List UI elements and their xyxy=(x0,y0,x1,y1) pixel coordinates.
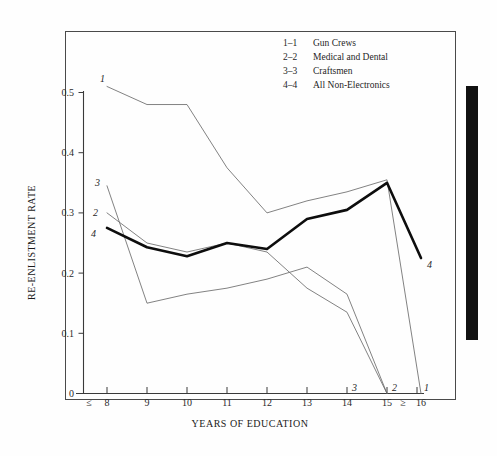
x-tick-8: 8 xyxy=(105,397,110,408)
side-black-bar xyxy=(466,86,478,340)
legend-label-2: Medical and Dental xyxy=(313,52,388,62)
start-label-4: 4 xyxy=(91,228,96,239)
x-tick-labels: ≤ 8 9 10 11 12 13 14 15 ≥ 16 xyxy=(86,397,426,408)
series-start-labels: 1 3 2 4 xyxy=(91,73,105,239)
x-tick-16: 16 xyxy=(416,397,426,408)
plot-frame xyxy=(66,32,456,400)
legend: 1–1 Gun Crews 2–2 Medical and Dental 3–3… xyxy=(283,38,390,90)
chart-page: 1–1 Gun Crews 2–2 Medical and Dental 3–3… xyxy=(0,0,497,456)
x-tick-gte: ≥ xyxy=(400,397,406,408)
y-tick-labels: 0.5 0.4 0.3 0.2 0.1 0 xyxy=(62,87,75,399)
legend-key-3: 3–3 xyxy=(283,66,298,76)
legend-key-4: 4–4 xyxy=(283,80,298,90)
x-tick-11: 11 xyxy=(222,397,232,408)
series-line-1 xyxy=(107,86,421,393)
series-layer xyxy=(107,86,421,393)
end-label-2: 2 xyxy=(392,382,397,393)
end-label-1: 1 xyxy=(424,382,429,393)
start-label-1: 1 xyxy=(100,73,105,84)
start-label-2: 2 xyxy=(93,207,98,218)
y-tick-0.4: 0.4 xyxy=(62,147,75,158)
x-tick-14: 14 xyxy=(342,397,352,408)
end-label-4: 4 xyxy=(427,259,432,270)
series-end-labels: 3 2 1 4 xyxy=(351,259,432,393)
y-ticks xyxy=(79,93,84,394)
x-tick-lte: ≤ xyxy=(86,397,92,408)
x-tick-12: 12 xyxy=(262,397,272,408)
series-line-3 xyxy=(107,186,387,394)
legend-key-2: 2–2 xyxy=(283,52,298,62)
y-tick-0.3: 0.3 xyxy=(62,207,75,218)
reenlistment-rate-line-chart: 1–1 Gun Crews 2–2 Medical and Dental 3–3… xyxy=(0,0,497,456)
x-tick-15: 15 xyxy=(382,397,392,408)
axes: 0.5 0.4 0.3 0.2 0.1 0 RE-ENLISTMENT RATE xyxy=(26,87,426,429)
series-line-4 xyxy=(107,183,421,258)
y-tick-0.1: 0.1 xyxy=(62,328,75,339)
end-label-3: 3 xyxy=(351,382,357,393)
x-ticks xyxy=(107,387,417,394)
x-axis-title: YEARS OF EDUCATION xyxy=(192,418,309,429)
legend-label-4: All Non-Electronics xyxy=(313,80,390,90)
legend-label-3: Craftsmen xyxy=(313,66,353,76)
x-tick-10: 10 xyxy=(182,397,192,408)
start-label-3: 3 xyxy=(94,177,100,188)
x-tick-13: 13 xyxy=(302,397,312,408)
x-tick-9: 9 xyxy=(145,397,150,408)
y-tick-0.5: 0.5 xyxy=(62,87,75,98)
legend-key-1: 1–1 xyxy=(283,38,298,48)
series-line-2 xyxy=(107,213,387,394)
y-tick-0: 0 xyxy=(69,388,74,399)
y-axis-title: RE-ENLISTMENT RATE xyxy=(26,185,37,300)
legend-label-1: Gun Crews xyxy=(313,38,356,48)
y-tick-0.2: 0.2 xyxy=(62,268,75,279)
